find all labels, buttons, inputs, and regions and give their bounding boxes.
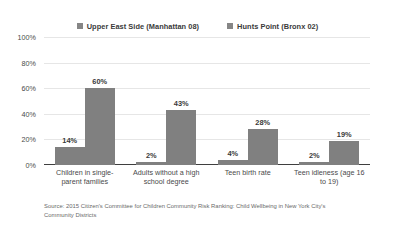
bar-slot: 2% [136,37,166,165]
bar-value-label: 4% [227,149,238,158]
bar-value-label: 14% [62,136,77,145]
x-axis-category-label: Teen idleness (age 16 to 19) [289,168,371,196]
y-axis-tick: 60% [22,84,36,93]
y-axis: 100% 80% 60% 40% 20% 0% [0,37,42,165]
y-axis-tick: 80% [22,58,36,67]
x-axis-labels: Children in single-parent families Adult… [44,168,370,196]
bar-value-label: 60% [92,77,107,86]
bar-value-label: 2% [309,151,320,160]
bar-group-adults-no-hs-degree: 2% 43% [126,37,208,165]
bar-value-label: 2% [146,151,157,160]
bar-upper-east-side[interactable]: 4% [218,160,248,165]
legend-item-label: Hunts Point (Bronx 02) [237,22,318,31]
bar-hunts-point[interactable]: 60% [85,88,115,165]
y-axis-tick: 100% [18,33,36,42]
bar-hunts-point[interactable]: 43% [166,110,196,165]
bar-slot: 60% [85,37,115,165]
y-axis-tick: 20% [22,135,36,144]
bar-value-label: 28% [255,118,270,127]
bar-groups: 14% 60% 2% 43% 4% 28% [44,37,370,165]
bar-group-teen-birth-rate: 4% 28% [207,37,289,165]
legend-item-hunts-point[interactable]: Hunts Point (Bronx 02) [227,22,318,31]
bar-upper-east-side[interactable]: 2% [136,162,166,165]
bar-slot: 28% [248,37,278,165]
bar-upper-east-side[interactable]: 14% [55,147,85,165]
legend-swatch-icon [77,23,83,29]
bar-value-label: 19% [337,130,352,139]
chart-legend: Upper East Side (Manhattan 08) Hunts Poi… [0,19,395,33]
x-axis-category-label: Children in single-parent families [44,168,126,196]
bar-group-teen-idleness: 2% 19% [289,37,371,165]
bar-hunts-point[interactable]: 19% [329,141,359,165]
legend-item-label: Upper East Side (Manhattan 08) [87,22,199,31]
bar-slot: 14% [55,37,85,165]
legend-item-upper-east-side[interactable]: Upper East Side (Manhattan 08) [77,22,199,31]
bar-group-children-single-parent: 14% 60% [44,37,126,165]
x-axis-category-label: Adults without a high school degree [126,168,208,196]
bar-slot: 2% [299,37,329,165]
bar-value-label: 43% [174,99,189,108]
legend-swatch-icon [227,23,233,29]
bar-slot: 4% [218,37,248,165]
bar-slot: 19% [329,37,359,165]
x-axis-category-label: Teen birth rate [207,168,289,196]
y-axis-tick: 40% [22,109,36,118]
bar-slot: 43% [166,37,196,165]
bar-upper-east-side[interactable]: 2% [299,162,329,165]
source-note: Source: 2015 Citizen's Committee for Chi… [44,202,344,220]
y-axis-tick: 0% [26,161,36,170]
bar-hunts-point[interactable]: 28% [248,129,278,165]
